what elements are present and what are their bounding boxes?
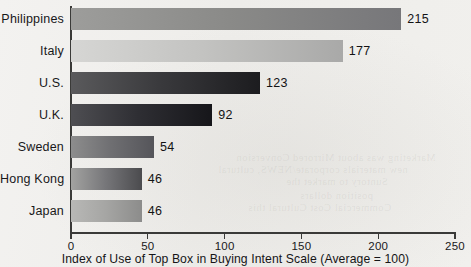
category-label-u-k-: U.K.	[0, 108, 64, 122]
bar-row: 92	[71, 104, 471, 126]
bar-value-italy: 177	[349, 44, 371, 58]
bar-value-u-k-: 92	[218, 108, 233, 122]
bar-row: 46	[71, 200, 471, 222]
category-label-japan: Japan	[0, 204, 64, 218]
x-axis-line	[70, 232, 456, 234]
bar-row: 215	[71, 8, 471, 30]
x-tick-label-0: 0	[68, 240, 75, 252]
x-tick-label-150: 150	[291, 240, 311, 252]
x-tick-label-200: 200	[368, 240, 388, 252]
x-tick-150	[301, 233, 302, 239]
bar-value-hong-kong: 46	[148, 172, 163, 186]
bar-value-japan: 46	[148, 204, 163, 218]
x-tick-label-50: 50	[141, 240, 154, 252]
bar-value-sweden: 54	[160, 140, 175, 154]
x-tick-200	[378, 233, 379, 239]
category-label-sweden: Sweden	[0, 140, 64, 154]
category-label-u-s-: U.S.	[0, 76, 64, 90]
category-label-hong-kong: Hong Kong	[0, 172, 64, 186]
bar-sweden	[71, 136, 154, 158]
bar-row: 177	[71, 40, 471, 62]
bar-philippines	[71, 8, 401, 30]
bar-japan	[71, 200, 142, 222]
bar-u-s-	[71, 72, 260, 94]
x-tick-label-100: 100	[215, 240, 235, 252]
bar-row: 123	[71, 72, 471, 94]
bar-row: 46	[71, 168, 471, 190]
category-label-philippines: Philippines	[0, 12, 64, 26]
x-axis-title: Index of Use of Top Box in Buying Intent…	[0, 252, 471, 266]
bar-value-u-s-: 123	[266, 76, 288, 90]
x-tick-250	[454, 233, 455, 239]
x-tick-0	[70, 233, 71, 239]
bar-row: 54	[71, 136, 471, 158]
bar-value-philippines: 215	[407, 12, 429, 26]
x-tick-label-250: 250	[445, 240, 465, 252]
x-tick-100	[224, 233, 225, 239]
x-tick-50	[147, 233, 148, 239]
bar-italy	[71, 40, 343, 62]
bar-u-k-	[71, 104, 212, 126]
category-label-italy: Italy	[0, 44, 64, 58]
chart-container: Marketing was about Mirrored Conversion …	[0, 0, 471, 267]
bar-hong-kong	[71, 168, 142, 190]
